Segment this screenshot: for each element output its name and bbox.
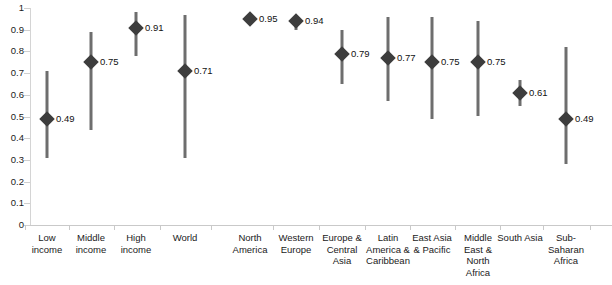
category-label-line: Caribbean <box>357 255 419 267</box>
range-bar <box>565 47 568 164</box>
x-axis-tick <box>211 225 212 230</box>
data-point-value-label: 0.49 <box>575 114 594 124</box>
category-label-line: Saharan <box>535 244 597 256</box>
data-point-value-label: 0.91 <box>145 23 164 33</box>
x-axis-tick <box>365 225 366 230</box>
data-point-value-label: 0.49 <box>56 114 75 124</box>
x-axis-tick <box>69 225 70 230</box>
range-bar <box>184 15 187 158</box>
x-axis-tick <box>590 225 591 230</box>
y-axis-tick-label: 0.8 <box>0 46 24 55</box>
y-axis-tick-label: 1 <box>0 3 24 12</box>
data-point-value-label: 0.75 <box>487 57 506 67</box>
y-axis-tick-label: 0 <box>0 220 24 229</box>
x-axis-tick <box>500 225 501 230</box>
x-axis-tick <box>160 225 161 230</box>
data-point-value-label: 0.94 <box>305 16 324 26</box>
y-axis-tick-label: 0.1 <box>0 198 24 207</box>
x-axis-tick <box>410 225 411 230</box>
data-point-value-label: 0.77 <box>397 53 416 63</box>
category-label-line: Sub- <box>535 232 597 244</box>
y-axis-tick-label: 0.9 <box>0 25 24 34</box>
y-axis-tick-label: 0.6 <box>0 90 24 99</box>
x-axis-tick <box>25 225 26 230</box>
x-axis-tick <box>273 225 274 230</box>
category-label-line: income <box>105 244 167 256</box>
category-label-line: Africa <box>535 255 597 267</box>
y-axis-tick-label: 0.4 <box>0 133 24 142</box>
category-label-line: East & <box>447 244 509 256</box>
y-axis-tick-label: 0.3 <box>0 155 24 164</box>
data-point-value-label: 0.75 <box>100 57 119 67</box>
data-point-value-label: 0.61 <box>529 88 548 98</box>
y-axis-tick-label: 0.2 <box>0 177 24 186</box>
category-label-line: Africa <box>447 267 509 279</box>
plot-area <box>30 8 612 225</box>
data-point-value-label: 0.71 <box>194 66 213 76</box>
data-point-value-label: 0.95 <box>259 14 278 24</box>
x-axis-category-label: World <box>154 232 216 244</box>
range-bar <box>90 32 93 130</box>
x-axis-tick <box>455 225 456 230</box>
category-label-line: World <box>154 232 216 244</box>
data-point-value-label: 0.75 <box>441 57 460 67</box>
x-axis-tick <box>114 225 115 230</box>
x-axis-category-label: Sub-SaharanAfrica <box>535 232 597 267</box>
chart-container: 00.10.20.30.40.50.60.70.80.91 LowincomeM… <box>0 0 612 285</box>
category-label-line: North <box>447 255 509 267</box>
x-axis-tick <box>543 225 544 230</box>
x-axis-tick <box>319 225 320 230</box>
data-point-value-label: 0.79 <box>351 49 370 59</box>
x-axis-line <box>30 225 612 226</box>
y-axis-tick-label: 0.7 <box>0 68 24 77</box>
y-axis-tick-label: 0.5 <box>0 112 24 121</box>
